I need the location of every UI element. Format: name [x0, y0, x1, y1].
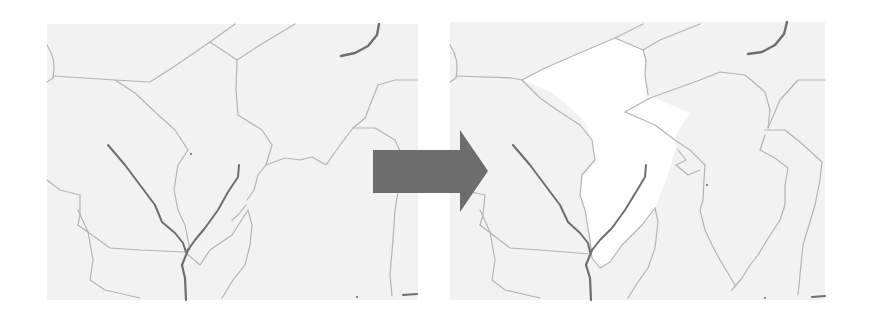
river-line [812, 296, 825, 297]
before-map [47, 24, 418, 300]
diagram-canvas [0, 0, 869, 319]
after-map [450, 22, 825, 300]
map-point [190, 153, 192, 155]
map-comparison-diagram [0, 0, 869, 319]
map-area [47, 24, 418, 300]
map-point [764, 297, 766, 299]
map-point [706, 184, 708, 186]
map-point [356, 296, 358, 298]
river-line [403, 294, 417, 295]
